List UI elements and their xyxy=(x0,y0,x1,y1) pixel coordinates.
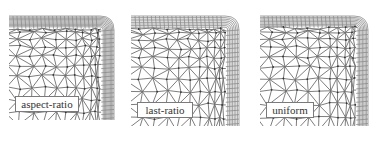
mesh-panel-aspect-ratio: aspect-ratio xyxy=(9,14,118,120)
mesh-panel-last-ratio: last-ratio xyxy=(131,14,243,126)
panel-label-uniform: uniform xyxy=(266,102,314,118)
panel-label-aspect-ratio: aspect-ratio xyxy=(15,96,79,112)
mesh-panel-uniform: uniform xyxy=(260,14,372,126)
panel-label-last-ratio: last-ratio xyxy=(137,102,193,118)
